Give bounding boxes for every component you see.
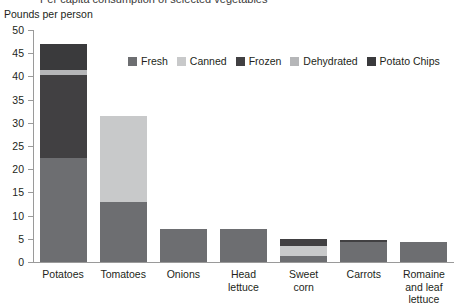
bar-segment-canned bbox=[100, 116, 147, 202]
x-axis-line bbox=[33, 262, 454, 263]
y-tick-label: 5 bbox=[0, 234, 24, 244]
chart-title-text: Per capita consumption of selected veget… bbox=[40, 0, 267, 5]
x-tick-label: Romaineand leaflettuce bbox=[394, 268, 454, 306]
bar-segment-frozen bbox=[280, 239, 327, 246]
bar-onions[interactable] bbox=[160, 229, 207, 262]
bar-potatoes[interactable] bbox=[40, 44, 87, 262]
bar-segment-fresh bbox=[100, 202, 147, 262]
y-tick-label: 15 bbox=[0, 187, 24, 197]
y-tick-label: 30 bbox=[0, 118, 24, 128]
y-tick-mark bbox=[28, 262, 33, 263]
y-tick-label: 25 bbox=[0, 141, 24, 151]
y-axis-title: Pounds per person bbox=[4, 8, 93, 20]
bar-segment-fresh bbox=[400, 242, 447, 262]
bar-segment-frozen bbox=[40, 75, 87, 158]
bar-segment-potato-chips bbox=[40, 44, 87, 70]
y-tick-label: 50 bbox=[0, 25, 24, 35]
x-tick-label: Onions bbox=[153, 268, 213, 281]
bar-tomatoes[interactable] bbox=[100, 116, 147, 262]
y-tick-label: 0 bbox=[0, 257, 24, 267]
bar-romaine-and-leaf-lettuce[interactable] bbox=[400, 242, 447, 262]
bar-segment-fresh bbox=[40, 158, 87, 262]
x-tick-label: Headlettuce bbox=[213, 268, 273, 293]
x-tick-label: Potatoes bbox=[33, 268, 93, 281]
plot-area bbox=[33, 30, 454, 262]
y-tick-label: 40 bbox=[0, 71, 24, 81]
bar-head-lettuce[interactable] bbox=[220, 229, 267, 262]
x-tick-label: Carrots bbox=[334, 268, 394, 281]
bar-segment-fresh bbox=[340, 242, 387, 262]
bar-carrots[interactable] bbox=[340, 240, 387, 262]
x-tick-label: Sweetcorn bbox=[274, 268, 334, 293]
chart-container: Per capita consumption of selected veget… bbox=[0, 0, 460, 308]
bar-segment-fresh bbox=[220, 229, 267, 262]
bar-sweet-corn[interactable] bbox=[280, 239, 327, 262]
bar-segment-canned bbox=[280, 246, 327, 256]
x-tick-label: Tomatoes bbox=[93, 268, 153, 281]
y-tick-label: 10 bbox=[0, 211, 24, 221]
bar-segment-fresh bbox=[280, 256, 327, 262]
chart-title-clipped: Per capita consumption of selected veget… bbox=[0, 0, 460, 6]
y-tick-label: 45 bbox=[0, 48, 24, 58]
y-tick-label: 20 bbox=[0, 164, 24, 174]
bar-segment-fresh bbox=[160, 229, 207, 262]
y-tick-label: 35 bbox=[0, 95, 24, 105]
